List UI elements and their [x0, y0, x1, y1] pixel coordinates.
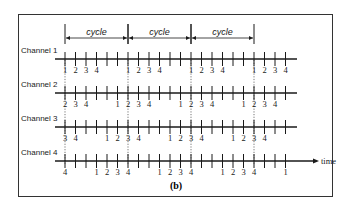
channel-label: Channel 2 [21, 80, 58, 89]
slot-label: 3 [262, 99, 266, 109]
slot-label: 2 [73, 65, 77, 75]
slot-label: 1 [115, 99, 119, 109]
slot-label: 2 [241, 133, 245, 143]
slot-label: 3 [252, 133, 256, 143]
channel-label: Channel 3 [21, 114, 58, 123]
channel-cycle-diagram: cyclecyclecycle Channel 1123412341234123… [0, 0, 352, 211]
slot-label: 2 [252, 99, 256, 109]
slot-label: 3 [210, 65, 214, 75]
slot-label: 2 [189, 99, 193, 109]
slot-label: 2 [115, 133, 119, 143]
slot-label: 1 [105, 133, 109, 143]
slot-label: 2 [262, 65, 266, 75]
slot-label: 2 [168, 167, 172, 177]
slot-label: 1 [94, 167, 98, 177]
slot-label: 1 [168, 133, 172, 143]
slot-label: 1 [231, 133, 235, 143]
slot-label: 3 [189, 133, 193, 143]
slot-label: 1 [178, 99, 182, 109]
slot-label: 1 [252, 65, 256, 75]
channel-label: Channel 4 [21, 148, 58, 157]
slot-label: 1 [157, 167, 161, 177]
slot-label: 1 [126, 65, 130, 75]
cycle-label: cycle [86, 27, 107, 37]
slot-label: 3 [73, 99, 77, 109]
slot-label: 2 [178, 133, 182, 143]
slot-label: 1 [241, 99, 245, 109]
slot-label: 3 [199, 99, 203, 109]
slot-label: 2 [199, 65, 203, 75]
slot-label: 2 [136, 65, 140, 75]
figure-label: (b) [170, 180, 182, 192]
slot-label: 2 [231, 167, 235, 177]
cycle-label: cycle [212, 27, 233, 37]
slot-label: 1 [189, 65, 193, 75]
slot-label: 3 [241, 167, 245, 177]
time-axis-label: time [321, 156, 336, 166]
slot-label: 3 [63, 133, 67, 143]
slot-label: 3 [136, 99, 140, 109]
slot-label: 2 [63, 99, 67, 109]
cycle-label: cycle [149, 27, 170, 37]
slot-label: 2 [105, 167, 109, 177]
slot-label: 3 [178, 167, 182, 177]
slot-label: 3 [147, 65, 151, 75]
slot-label: 3 [273, 65, 277, 75]
slot-label: 1 [220, 167, 224, 177]
slot-label: 1 [63, 65, 67, 75]
channel-label: Channel 1 [21, 46, 58, 55]
slot-label: 3 [84, 65, 88, 75]
slot-label: 2 [126, 99, 130, 109]
slot-label: 3 [115, 167, 119, 177]
slot-label: 1 [283, 167, 287, 177]
slot-label: 3 [126, 133, 130, 143]
